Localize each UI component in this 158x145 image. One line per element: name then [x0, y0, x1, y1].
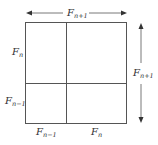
arrow-up-icon: [139, 23, 144, 29]
outer-square: [26, 23, 127, 124]
arrow-down-icon: [139, 117, 144, 123]
label-left-lower: Fn−1: [4, 95, 26, 108]
arrow-left-icon: [26, 11, 32, 16]
label-bottom-right: Fn: [90, 126, 102, 139]
arrow-right-icon: [121, 11, 127, 16]
label-left-upper: Fn: [11, 46, 23, 59]
fibonacci-square-diagram: Fn+1 Fn+1 Fn Fn−1 Fn−1 Fn: [0, 0, 158, 145]
label-right: Fn+1: [132, 67, 154, 80]
label-top: Fn+1: [66, 7, 88, 20]
label-bottom-left: Fn−1: [35, 126, 57, 139]
